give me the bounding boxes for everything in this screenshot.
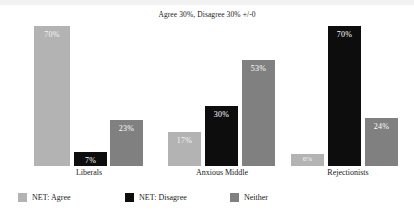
legend-item-neither[interactable]: Neither	[230, 193, 268, 202]
chart-legend: NET: Agree NET: Disagree Neither	[0, 193, 414, 209]
legend-swatch-icon	[230, 193, 239, 202]
bar-value-label: 7%	[74, 156, 107, 165]
bar-rejectionists-neither[interactable]: 24%	[365, 118, 398, 166]
bar-value-label: 17%	[168, 136, 201, 145]
bar-chart: Agree 30%, Disagree 30% +/-0 70% 7% 23% …	[0, 0, 414, 218]
legend-label: NET: Agree	[32, 193, 70, 202]
legend-swatch-icon	[18, 193, 27, 202]
category-label-liberals: Liberals	[53, 168, 125, 177]
bar-value-label: 53%	[242, 64, 275, 73]
plot-area: 70% 7% 23% 17% 30% 53% 6% 70% 24%	[0, 22, 414, 166]
bar-anxious-middle-neither[interactable]: 53%	[242, 60, 275, 166]
bar-rejectionists-net-disagree[interactable]: 70%	[328, 26, 361, 166]
bar-value-label: 30%	[205, 110, 238, 119]
bar-liberals-net-disagree[interactable]: 7%	[74, 152, 107, 166]
legend-label: Neither	[244, 193, 268, 202]
legend-swatch-icon	[125, 193, 134, 202]
legend-item-net-disagree[interactable]: NET: Disagree	[125, 193, 187, 202]
category-axis: Liberals Anxious Middle Rejectionists	[0, 168, 414, 182]
category-label-anxious-middle: Anxious Middle	[186, 168, 258, 177]
bar-anxious-middle-net-disagree[interactable]: 30%	[205, 106, 238, 166]
legend-item-net-agree[interactable]: NET: Agree	[18, 193, 70, 202]
bar-value-label: 70%	[328, 30, 361, 39]
bar-value-label: 24%	[365, 122, 398, 131]
bar-value-label: 70%	[34, 30, 70, 39]
bar-anxious-middle-net-agree[interactable]: 17%	[168, 132, 201, 166]
bar-value-label: 6%	[291, 155, 324, 163]
bar-liberals-neither[interactable]: 23%	[110, 120, 143, 166]
category-label-rejectionists: Rejectionists	[308, 168, 388, 177]
legend-label: NET: Disagree	[139, 193, 187, 202]
chart-title: Agree 30%, Disagree 30% +/-0	[0, 10, 414, 19]
bar-rejectionists-net-agree[interactable]: 6%	[291, 154, 324, 166]
bar-liberals-net-agree[interactable]: 70%	[34, 26, 70, 166]
top-strip	[0, 0, 414, 5]
bar-value-label: 23%	[110, 124, 143, 133]
